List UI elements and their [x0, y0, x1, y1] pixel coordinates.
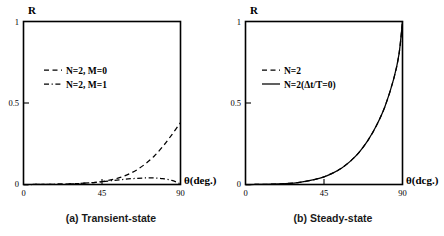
- y-axis-title: R: [250, 4, 259, 16]
- plot-frame: [246, 22, 403, 185]
- legend: N=2, M=0 N=2, M=1: [44, 66, 107, 90]
- figure-container: R 1 0.5 0 0 45 90 θ(deg.) N=2, M=0 N=2, …: [0, 0, 444, 236]
- y-tick-label-05: 0.5: [230, 98, 241, 108]
- legend-label-1: N=2(Δt/T=0): [284, 80, 336, 91]
- series-path-1: [246, 22, 403, 185]
- x-tick-label-45: 45: [320, 188, 329, 198]
- y-axis-title: R: [28, 4, 37, 16]
- chart-transient-state: R 1 0.5 0 0 45 90 θ(deg.) N=2, M=0 N=2, …: [0, 0, 222, 236]
- legend-label-0: N=2: [284, 66, 301, 76]
- panel-transient-state: R 1 0.5 0 0 45 90 θ(deg.) N=2, M=0 N=2, …: [0, 0, 222, 236]
- series-path-0: [246, 22, 403, 185]
- series-path-0: [24, 123, 181, 185]
- legend: N=2 N=2(Δt/T=0): [262, 66, 336, 91]
- plot-frame: [24, 22, 181, 185]
- panel-steady-state: R 1 0.5 0 0 45 90 θ(dcg.) N=2 N=2(Δt/T=0…: [222, 0, 444, 236]
- x-tick-label-45: 45: [98, 188, 107, 198]
- y-tick-label-1: 1: [237, 17, 241, 27]
- y-tick-label-0: 0: [15, 179, 19, 189]
- legend-label-0: N=2, M=0: [66, 66, 107, 76]
- y-tick-label-05: 0.5: [8, 98, 19, 108]
- x-tick-label-0: 0: [243, 188, 247, 198]
- x-tick-label-90: 90: [398, 188, 407, 198]
- x-tick-label-0: 0: [21, 188, 25, 198]
- y-tick-label-0: 0: [237, 179, 241, 189]
- y-tick-label-1: 1: [15, 17, 19, 27]
- x-axis-title: θ(deg.): [184, 174, 217, 187]
- x-axis-title: θ(dcg.): [406, 174, 439, 187]
- chart-steady-state: R 1 0.5 0 0 45 90 θ(dcg.) N=2 N=2(Δt/T=0…: [222, 0, 444, 236]
- x-tick-label-90: 90: [176, 188, 185, 198]
- legend-label-1: N=2, M=1: [66, 80, 107, 90]
